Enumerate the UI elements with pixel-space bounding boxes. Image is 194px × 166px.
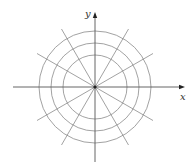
radial-line <box>62 87 96 145</box>
radial-line <box>95 54 153 88</box>
polar-grid-diagram: x y <box>0 0 194 166</box>
radial-line <box>37 54 95 88</box>
radial-line <box>95 87 153 121</box>
y-axis-arrow-icon <box>93 12 97 18</box>
x-axis-label: x <box>180 91 186 102</box>
radial-line <box>62 29 96 87</box>
y-axis-label: y <box>84 8 91 19</box>
radial-line <box>37 87 95 121</box>
axes <box>13 12 185 162</box>
x-axis-arrow-icon <box>179 85 185 89</box>
radial-line <box>95 87 129 145</box>
radial-line <box>95 29 129 87</box>
origin-point <box>93 85 96 88</box>
